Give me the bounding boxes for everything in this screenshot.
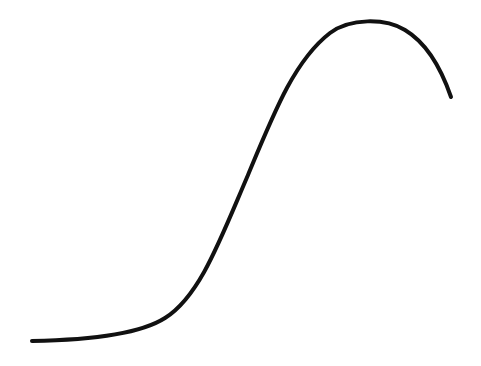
curve-figure [0, 0, 481, 366]
diagram-canvas [0, 0, 481, 366]
curve-line [32, 21, 451, 341]
